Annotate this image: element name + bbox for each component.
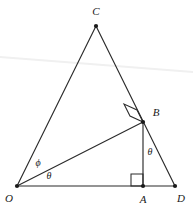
vertex-dot-d: [173, 184, 177, 188]
geometry-diagram: O A D B C ϕ θ θ: [0, 0, 193, 208]
vertex-dot-o: [15, 184, 19, 188]
segment-cd: [96, 26, 175, 186]
segment-oc: [17, 26, 96, 186]
vertex-dot-b: [141, 120, 145, 124]
angle-label-theta-at-b: θ: [148, 147, 153, 157]
angle-label-phi-at-o: ϕ: [35, 158, 40, 168]
angle-label-theta-at-o: θ: [47, 171, 52, 181]
vertex-dot-a: [141, 184, 145, 188]
vertex-label-c: C: [92, 6, 99, 17]
vertex-label-b: B: [153, 107, 160, 118]
vertex-dot-c: [94, 24, 98, 28]
geometry-canvas: [0, 0, 193, 208]
vertex-label-a: A: [140, 194, 147, 205]
vertex-label-o: O: [5, 193, 13, 204]
segment-ob: [17, 122, 143, 186]
right-angle-marker-at-a: [131, 174, 143, 186]
right-angle-marker-at-b: [124, 104, 143, 122]
vertex-label-d: D: [177, 193, 185, 204]
scan-artifact-line: [0, 57, 193, 72]
